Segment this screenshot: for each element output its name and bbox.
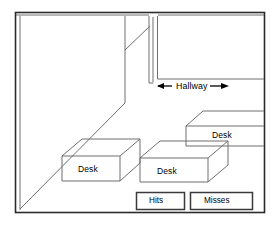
misses-button-label[interactable]: Misses <box>204 197 229 205</box>
hallway-label: Hallway <box>176 82 208 91</box>
hits-button-label[interactable]: Hits <box>149 197 163 205</box>
diagram-canvas: Hallway Desk Desk Desk Hits Misses <box>0 0 276 226</box>
desk-left-label: Desk <box>78 165 98 174</box>
desk-right-label: Desk <box>212 131 232 140</box>
desk-middle-label: Desk <box>157 167 177 176</box>
room-line-drawing <box>0 0 276 226</box>
